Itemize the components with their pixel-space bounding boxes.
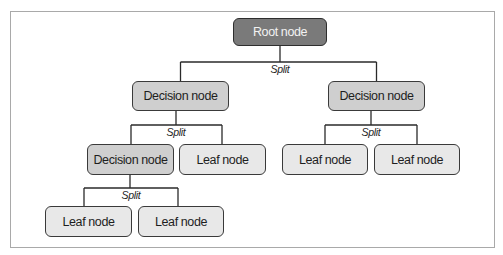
split-label-decision-right: Split [362, 126, 381, 138]
decision-node-lower: Decision node [87, 144, 174, 175]
split-label-decision-left: Split [167, 126, 186, 138]
decision-node-left: Decision node [132, 81, 229, 111]
leaf-node: Leaf node [138, 206, 224, 237]
leaf-node: Leaf node [374, 144, 460, 175]
leaf-node: Leaf node [282, 144, 368, 175]
leaf-node: Leaf node [45, 206, 132, 237]
split-label-decision-lower: Split [122, 189, 141, 201]
split-label-root: Split [271, 63, 290, 75]
root-node: Root node [233, 18, 327, 46]
decision-tree-diagram: Root node Decision node Decision node De… [0, 0, 503, 255]
decision-node-right: Decision node [328, 81, 425, 111]
leaf-node: Leaf node [179, 144, 266, 175]
